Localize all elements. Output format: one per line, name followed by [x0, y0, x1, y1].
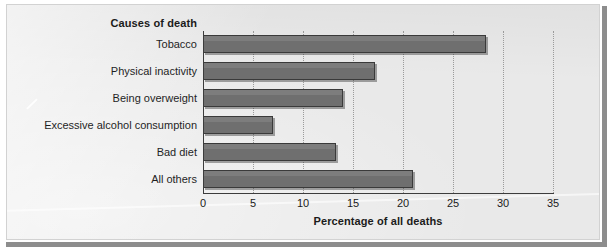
- tick-label-20: 20: [388, 197, 418, 209]
- tick-label-30: 30: [488, 197, 518, 209]
- bar-row: [203, 139, 553, 166]
- tick-label-0: 0: [188, 197, 218, 209]
- bar-bad-diet: [203, 143, 336, 161]
- bar-row: [203, 112, 553, 139]
- figure-screenshot: Causes of death TobaccoPhysical inactivi…: [0, 0, 607, 247]
- category-axis-line: [203, 193, 554, 194]
- bar-row: [203, 58, 553, 85]
- category-label: Excessive alcohol consumption: [7, 112, 197, 139]
- bar-physical-inactivity: [203, 62, 375, 80]
- frame-edge-bottom: [6, 242, 607, 247]
- chart-panel: Causes of death TobaccoPhysical inactivi…: [6, 4, 600, 240]
- value-axis-title: Percentage of all deaths: [203, 215, 553, 227]
- tick-label-25: 25: [438, 197, 468, 209]
- bar-being-overweight: [203, 89, 343, 107]
- category-label: Bad diet: [7, 139, 197, 166]
- gridline-35: [553, 31, 554, 193]
- bar-excessive-alcohol-consumption: [203, 116, 273, 134]
- plot-area: [203, 31, 553, 193]
- bar-row: [203, 31, 553, 58]
- bar-all-others: [203, 170, 413, 188]
- category-label: All others: [7, 166, 197, 193]
- bar-tobacco: [203, 35, 486, 53]
- frame-edge-right: [602, 6, 607, 247]
- bar-row: [203, 85, 553, 112]
- tick-label-15: 15: [338, 197, 368, 209]
- category-label: Tobacco: [7, 31, 197, 58]
- category-label: Physical inactivity: [7, 58, 197, 85]
- category-label: Being overweight: [7, 85, 197, 112]
- value-axis-line: [203, 31, 204, 194]
- tick-label-5: 5: [238, 197, 268, 209]
- tick-label-35: 35: [538, 197, 568, 209]
- bar-row: [203, 166, 553, 193]
- series-title: Causes of death: [7, 17, 197, 29]
- tick-label-10: 10: [288, 197, 318, 209]
- bar-chart: Causes of death TobaccoPhysical inactivi…: [7, 5, 600, 240]
